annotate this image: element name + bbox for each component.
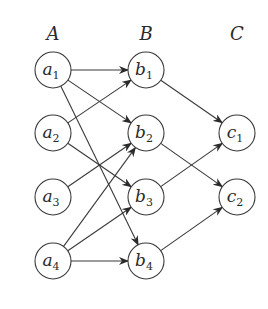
- node-b3: b3: [128, 179, 164, 215]
- node-a3: a3: [35, 179, 71, 215]
- column-label-b: B: [138, 23, 152, 44]
- nodes-layer: a1a2a3a4b1b2b3b4c1c2: [35, 52, 255, 279]
- column-labels-layer: ABC: [45, 23, 245, 44]
- edge-b4-c2: [161, 207, 223, 250]
- column-label-c: C: [230, 23, 244, 44]
- edge-b1-c1: [161, 80, 222, 123]
- edge-a4-b3: [68, 207, 131, 251]
- node-c2: c2: [219, 179, 255, 215]
- node-b1: b1: [128, 52, 164, 88]
- edge-a4-b2: [64, 148, 136, 247]
- node-a1: a1: [35, 52, 71, 88]
- edges-layer: [61, 70, 222, 261]
- bipartite-graph-diagram: a1a2a3a4b1b2b3b4c1c2 ABC: [0, 0, 268, 309]
- node-b2: b2: [128, 115, 164, 151]
- node-a4: a4: [35, 243, 71, 279]
- node-c1: c1: [219, 115, 255, 151]
- column-label-a: A: [45, 23, 60, 44]
- node-b4: b4: [128, 243, 164, 279]
- node-a2: a2: [35, 115, 71, 151]
